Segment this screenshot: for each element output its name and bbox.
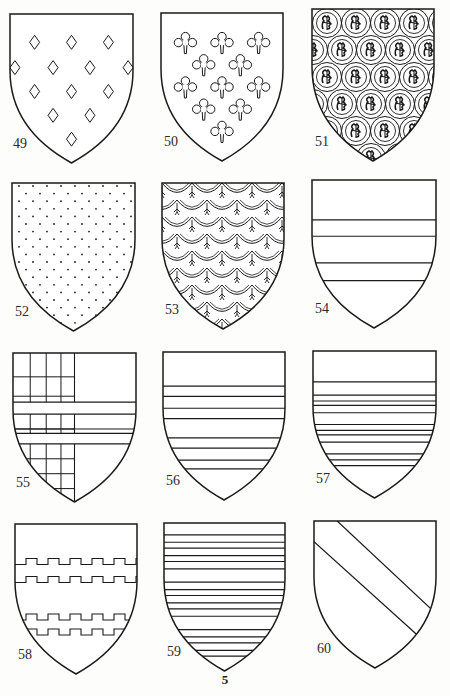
shield-icon <box>12 183 135 331</box>
figure-number: 57 <box>316 472 330 486</box>
shield-icon <box>163 352 285 500</box>
figure-number: 59 <box>167 645 181 659</box>
figure-number: 54 <box>315 302 329 316</box>
shield-icon <box>312 9 434 161</box>
shield-icon <box>314 521 436 668</box>
figure-number: 51 <box>315 135 329 149</box>
shield-icon <box>312 180 436 328</box>
shield-figure-54 <box>312 180 436 328</box>
shield-figure-50 <box>161 13 283 161</box>
shield-figure-56 <box>163 352 285 500</box>
shield-icon <box>13 353 136 502</box>
shield-icon <box>162 183 284 329</box>
figure-number: 58 <box>18 648 32 662</box>
figure-number: 60 <box>317 642 331 656</box>
shield-figure-55 <box>13 353 136 502</box>
shield-figure-57 <box>313 351 436 498</box>
shield-icon <box>313 351 436 498</box>
shield-icon <box>15 524 137 674</box>
figure-number: 55 <box>16 476 30 490</box>
page-number: 5 <box>0 672 450 688</box>
figure-number: 56 <box>166 474 180 488</box>
figure-number: 53 <box>165 303 179 317</box>
figure-number: 52 <box>15 305 29 319</box>
figure-number: 49 <box>13 137 27 151</box>
shield-figure-59 <box>164 523 285 671</box>
shield-figure-60 <box>314 521 436 668</box>
shield-icon <box>164 523 285 671</box>
shield-figure-58 <box>15 524 137 674</box>
shield-figure-53 <box>162 183 284 329</box>
shield-figure-52 <box>12 183 135 331</box>
shield-figure-51 <box>312 9 434 161</box>
shield-icon <box>161 13 283 161</box>
shield-figure-49 <box>10 14 133 163</box>
shield-icon <box>10 14 133 163</box>
figure-number: 50 <box>164 135 178 149</box>
